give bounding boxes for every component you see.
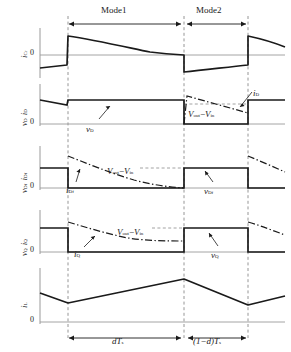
- dts-label: dTs: [112, 331, 123, 347]
- mode2-right-arrowhead: [241, 22, 246, 27]
- iq-waveform-next: [248, 222, 285, 235]
- iq-callout-label: iQ: [74, 244, 80, 260]
- zero-label-icr: 0: [30, 49, 34, 57]
- vdf-callout-label: vDf: [204, 181, 213, 197]
- idf-callout-label: iDf: [66, 180, 74, 196]
- y-axis-label-icr: iCr: [14, 50, 30, 58]
- y-axis-icr-sub: Cr: [23, 50, 28, 55]
- y-axis-vdf-main: v: [19, 189, 29, 193]
- y-axis-label-vd-id: vD iD: [14, 109, 30, 126]
- y-axis-vq-sub: Q: [23, 248, 28, 252]
- vdf-callout-sub: Df: [208, 190, 213, 195]
- offdts-sub: s: [219, 340, 221, 345]
- vin-sub-3: in: [139, 231, 143, 236]
- y-axis-idf-sub: Df: [23, 173, 28, 178]
- y-axis-il-main: i: [19, 305, 29, 308]
- dts-left-arrowhead: [69, 336, 74, 341]
- vd-callout-sub: D: [90, 128, 94, 133]
- vin-sub-1: in: [210, 113, 214, 118]
- mode2-left-arrowhead: [187, 22, 192, 27]
- vq-callout-sub: Q: [215, 254, 219, 259]
- mode1-left-arrowhead: [69, 22, 74, 27]
- y-axis-iq-main: i: [19, 243, 29, 246]
- vq-callout-label: vQ: [211, 245, 219, 261]
- waveform-canvas: [0, 0, 291, 352]
- vin-sub-2: in: [129, 170, 133, 175]
- vd-waveform: [40, 100, 285, 124]
- idf-callout-sub: Df: [69, 189, 74, 194]
- y-axis-label-vq-iq: vQ iQ: [14, 239, 30, 256]
- id-callout-sub: D: [256, 92, 260, 97]
- mode2-label: Mode2: [196, 6, 222, 15]
- zero-label-il: 0: [30, 316, 34, 324]
- idf-waveform-next: [248, 156, 285, 172]
- y-axis-idf-main: i: [19, 178, 29, 181]
- y-axis-iq-sub: Q: [23, 239, 28, 243]
- mode-boundary-lines: [68, 16, 248, 338]
- waveform-figure: Mode1 Mode2 0 0 0 0 0 iCr vD iD vDf iDf …: [0, 0, 291, 352]
- y-axis-label-il: iL: [14, 302, 30, 308]
- mode-span-group: [69, 22, 246, 27]
- y-axis-vd-main: v: [19, 122, 29, 126]
- y-axis-vd-sub: D: [23, 118, 28, 122]
- vd-callout-arrowhead: [106, 106, 110, 110]
- id-callout-label: iD: [253, 83, 259, 99]
- vout-vin-label-row4: Vout−Vin: [117, 222, 143, 238]
- y-axis-id-sub: D: [23, 109, 28, 113]
- vout-vin-label-row3: Vout−Vin: [107, 161, 133, 177]
- dts-main: dT: [112, 336, 122, 346]
- vout-vin-label-row2: Vout−Vin: [188, 104, 214, 120]
- dts-sub: s: [122, 340, 124, 345]
- zero-label-vq: 0: [30, 246, 34, 254]
- iq-callout-sub: Q: [77, 253, 81, 258]
- y-axis-label-vdf-idf: vDf iDf: [14, 173, 30, 193]
- y-axis-id-main: i: [19, 113, 29, 116]
- vd-callout-label: vD: [86, 119, 94, 135]
- zero-label-vd: 0: [30, 118, 34, 126]
- idf-callout-arrowhead: [76, 169, 80, 173]
- y-axis-il-sub: L: [23, 302, 28, 305]
- y-axis-vq-main: v: [19, 252, 29, 256]
- offdts-right-arrowhead: [241, 336, 246, 341]
- mode1-label: Mode1: [101, 6, 127, 15]
- vdf-waveform: [40, 168, 285, 188]
- zero-label-vdf: 0: [30, 182, 34, 190]
- offdts-main: (1−d)T: [193, 336, 219, 346]
- offdts-label: (1−d)Ts: [193, 331, 221, 347]
- row-icr-group: [40, 28, 285, 78]
- dts-right-arrowhead: [176, 336, 181, 341]
- y-axis-icr-main: i: [19, 55, 29, 58]
- y-axis-vdf-sub: Df: [23, 184, 28, 189]
- mode1-right-arrowhead: [176, 22, 181, 27]
